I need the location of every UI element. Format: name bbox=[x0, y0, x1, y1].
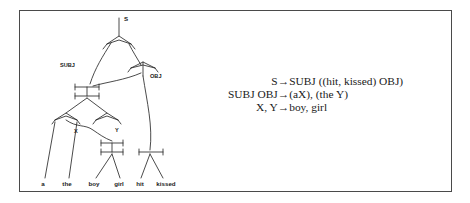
edge-to-leaf-hit bbox=[141, 154, 150, 178]
edge-obj-to-subj-bar bbox=[93, 73, 141, 86]
obj-node-arm-right bbox=[155, 68, 158, 72]
edge-to-leaf-girl bbox=[112, 154, 120, 178]
node-label-y: Y bbox=[115, 127, 119, 133]
rule-row: X, Y → boy, girl bbox=[228, 100, 403, 113]
edge-subj-to-y bbox=[87, 98, 107, 113]
leaf-label-boy: boy bbox=[88, 180, 100, 187]
obj-node-arm-left bbox=[128, 68, 131, 72]
edge-subj-to-x bbox=[66, 98, 87, 113]
rewrite-rules-block: S → SUBJ ((hit, kissed) OBJ) SUBJ OBJ → … bbox=[228, 74, 446, 114]
rule-lhs: SUBJ OBJ bbox=[228, 87, 278, 100]
leaf-label-the: the bbox=[62, 180, 72, 187]
x-node-arm-right bbox=[77, 120, 80, 124]
edge-x-crossing bbox=[66, 120, 112, 141]
s-node-arm-left bbox=[103, 44, 107, 49]
edge-obj-to-verb-bar bbox=[143, 76, 151, 150]
y-node-arm-left bbox=[93, 120, 96, 124]
rule-row: S → SUBJ ((hit, kissed) OBJ) bbox=[228, 74, 403, 87]
edge-to-leaf-a bbox=[45, 122, 55, 178]
figure-root: S SUBJ OBJ bbox=[0, 0, 470, 203]
node-label-s: S bbox=[124, 15, 128, 22]
rule-row: SUBJ OBJ → (aX), (the Y) bbox=[228, 87, 403, 100]
rewrite-rules-table: S → SUBJ ((hit, kissed) OBJ) SUBJ OBJ → … bbox=[228, 74, 403, 114]
edge-to-leaf-the bbox=[69, 122, 77, 178]
edge-s-to-subj bbox=[90, 43, 111, 84]
rule-arrow-icon: → bbox=[278, 100, 290, 113]
rule-rhs: boy, girl bbox=[289, 100, 403, 113]
rule-lhs: S bbox=[228, 74, 278, 87]
leaf-label-girl: girl bbox=[114, 180, 124, 187]
y-node-arm-right bbox=[118, 120, 121, 124]
edge-s-to-obj bbox=[129, 44, 141, 65]
rule-rhs: SUBJ ((hit, kissed) OBJ) bbox=[289, 74, 403, 87]
edge-to-leaf-kissed bbox=[150, 154, 163, 178]
rule-lhs: X, Y bbox=[228, 100, 278, 113]
edge-to-leaf-boy bbox=[96, 154, 112, 178]
rule-arrow-icon: → bbox=[278, 87, 290, 100]
rule-rhs: (aX), (the Y) bbox=[289, 87, 403, 100]
leaf-label-a: a bbox=[41, 180, 45, 187]
node-label-subj: SUBJ bbox=[60, 62, 75, 68]
node-label-obj: OBJ bbox=[150, 73, 162, 79]
leaf-label-hit: hit bbox=[136, 180, 144, 187]
rule-arrow-icon: → bbox=[278, 74, 290, 87]
leaf-label-kissed: kissed bbox=[156, 180, 175, 187]
